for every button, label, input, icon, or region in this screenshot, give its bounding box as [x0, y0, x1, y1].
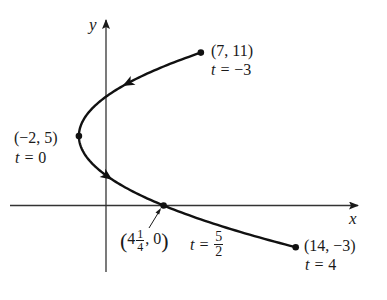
point-marker-p2 — [76, 133, 83, 140]
t-label-0: t = 0 — [15, 150, 46, 166]
point-marker-p4 — [292, 244, 299, 251]
labeled-points — [76, 49, 299, 250]
point-label-neg2-5: (−2, 5) — [14, 130, 58, 146]
y-axis-label: y — [89, 16, 97, 33]
pointer-arrowhead-icon — [156, 208, 162, 215]
x-axis-label: x — [349, 210, 357, 227]
direction-arrows — [100, 76, 136, 184]
point-marker-p1 — [198, 49, 205, 56]
t-value: −3 — [234, 61, 251, 78]
t-symbol: t = — [190, 236, 213, 253]
fraction-five-halves: 52 — [214, 230, 223, 259]
t-label-neg3: t = −3 — [211, 62, 251, 78]
t-value: 0 — [38, 149, 46, 166]
t-label-4: t = 4 — [305, 257, 336, 273]
direction-arrow-icon — [120, 76, 135, 91]
t-symbol: t = — [15, 149, 38, 166]
t-value: 4 — [328, 256, 336, 273]
t-symbol: t = — [211, 61, 234, 78]
parametric-curve — [79, 53, 296, 248]
t-symbol: t = — [305, 256, 328, 273]
point-marker-p3 — [160, 202, 167, 209]
point-label-14-neg3: (14, −3) — [304, 238, 356, 254]
t-label-5-halves: t = 52 — [190, 230, 224, 259]
point-label-7-11: (7, 11) — [211, 43, 253, 59]
fraction-one-quarter: 14 — [136, 228, 144, 253]
point-label-4quarter-0: (414, 0) — [120, 228, 169, 253]
parametric-curve-figure: y x (7, 11) t = −3 (−2, 5) t = 0 (414, 0… — [0, 0, 387, 300]
